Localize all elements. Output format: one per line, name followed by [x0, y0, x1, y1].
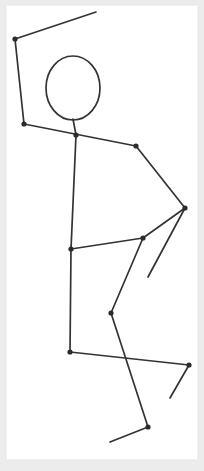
bones-group	[15, 12, 189, 442]
bone-left-upper-arm	[15, 39, 24, 124]
joint-neck-base	[73, 132, 78, 137]
joint-knee	[108, 310, 113, 315]
bone-right-shin	[170, 365, 189, 398]
joint-upper-hip	[140, 235, 145, 240]
head-outline-group	[46, 56, 100, 120]
bone-torso	[71, 135, 76, 249]
bone-left-clavicle	[24, 124, 136, 146]
bone-right-upper-arm	[136, 146, 185, 208]
stick-figure-drawing	[0, 0, 204, 471]
bone-left-foot	[110, 427, 148, 442]
joint-right-elbow	[182, 205, 187, 210]
joint-left-hand	[12, 36, 17, 41]
stick-figure-canvas	[0, 0, 204, 471]
bone-upper-thigh	[111, 238, 143, 313]
joint-ankle	[145, 424, 150, 429]
joint-right-shoulder	[133, 143, 138, 148]
bone-hip-link	[71, 238, 143, 249]
bone-right-forearm	[148, 208, 185, 277]
bone-left-thigh	[70, 249, 71, 352]
bone-right-flank	[143, 208, 185, 238]
joints-group	[12, 36, 191, 429]
joint-left-shoulder	[21, 121, 26, 126]
bone-left-forearm	[15, 12, 96, 39]
joint-right-knee	[186, 362, 191, 367]
bone-shin	[111, 313, 148, 427]
bone-pelvis-span	[70, 352, 189, 365]
joint-hip	[68, 246, 73, 251]
joint-pelvis-low	[67, 349, 72, 354]
head-icon	[46, 56, 100, 120]
